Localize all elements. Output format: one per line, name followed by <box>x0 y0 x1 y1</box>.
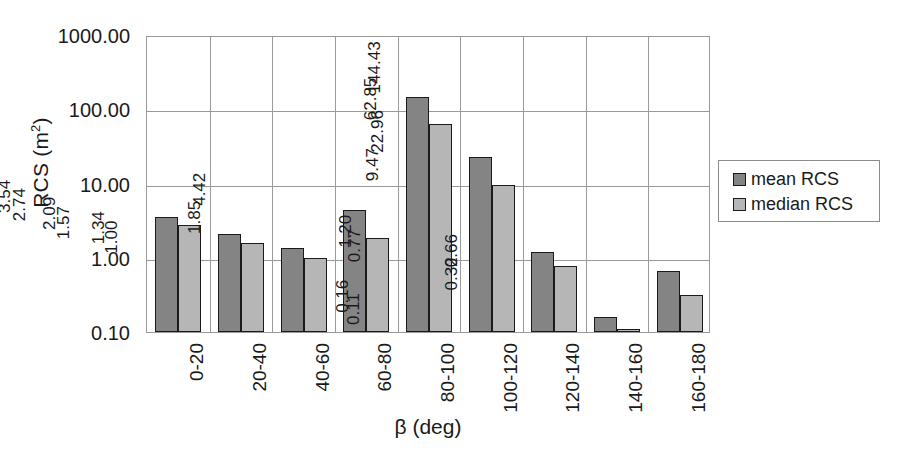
bar-40-60-mean <box>281 248 304 332</box>
y-axis-tick-100.00: 100.00 <box>69 99 130 122</box>
y-axis-tick-1000.00: 1000.00 <box>58 25 130 48</box>
x-axis-tick-140-160: 140-160 <box>625 343 647 413</box>
plot-area: 3.542.742.091.571.341.004.421.85144.4362… <box>146 36 710 333</box>
x-axis-tick-0-20: 0-20 <box>186 343 208 381</box>
bar-value-label-160-180-median: 0.32 <box>443 257 698 290</box>
x-axis-tick-80-100: 80-100 <box>437 343 459 402</box>
rcs-bar-chart: RCS (m2) 1000.00100.0010.001.000.10 3.54… <box>0 0 918 457</box>
y-axis-tick-0.10: 0.10 <box>91 322 130 345</box>
bar-value-label-100-120-median: 9.47 <box>364 148 510 181</box>
x-axis-tick-40-60: 40-60 <box>312 343 334 392</box>
legend-item-mean-rcs: mean RCS <box>733 167 879 192</box>
bar-140-160-median <box>617 329 640 332</box>
chart-legend: mean RCS median RCS <box>718 160 880 222</box>
x-axis-tick-120-140: 120-140 <box>562 343 584 413</box>
bar-160-180-median <box>680 295 703 333</box>
bars-layer: 3.542.742.091.571.341.004.421.85144.4362… <box>147 37 709 332</box>
legend-swatch-median-icon <box>733 198 746 211</box>
legend-swatch-mean-icon <box>733 173 746 186</box>
bar-value-label-100-120-mean: 22.96 <box>369 110 487 153</box>
x-axis-title: β (deg) <box>146 415 710 439</box>
legend-item-median-rcs: median RCS <box>733 192 879 217</box>
bar-40-60-median <box>304 258 327 332</box>
legend-label-median: median RCS <box>751 194 853 215</box>
x-axis-tick-20-40: 20-40 <box>249 343 271 392</box>
bar-group-160-180: 0.660.32 <box>648 37 711 332</box>
x-axis-tick-100-120: 100-120 <box>500 343 522 413</box>
bar-20-40-median <box>241 243 264 332</box>
bar-value-label-140-160-median: 0.11 <box>346 293 636 325</box>
x-axis-tick-60-80: 60-80 <box>374 343 396 392</box>
x-axis-tick-160-180: 160-180 <box>688 343 710 413</box>
legend-label-mean: mean RCS <box>751 169 839 190</box>
